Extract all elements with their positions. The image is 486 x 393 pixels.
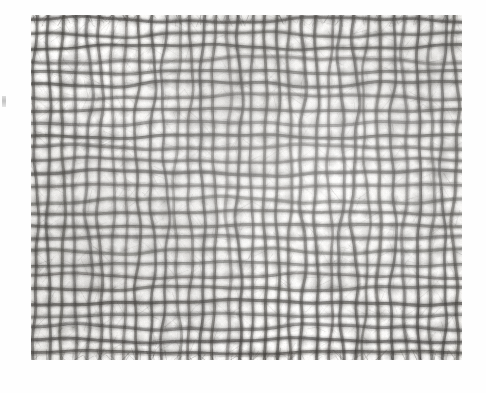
scan-edge-mark-icon	[2, 96, 6, 107]
scanned-page	[0, 0, 486, 393]
weave-texture	[31, 15, 462, 360]
woven-mesh-photograph	[31, 15, 462, 360]
